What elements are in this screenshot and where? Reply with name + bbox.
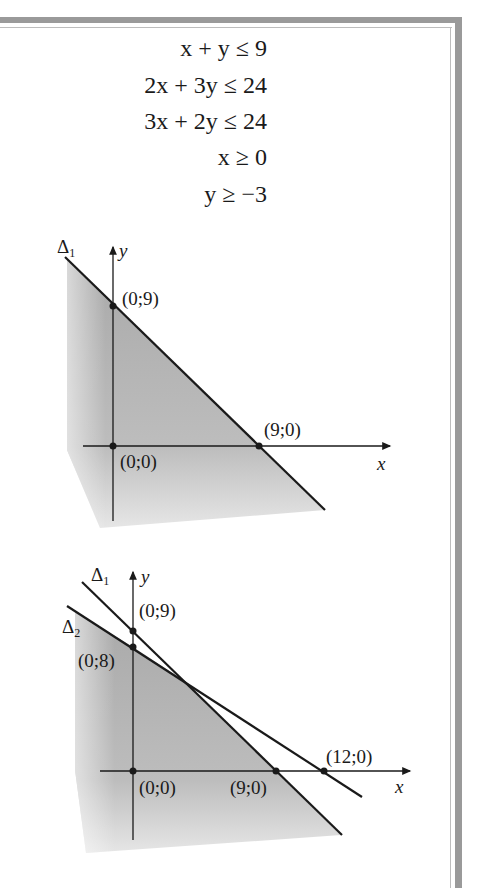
label-0-0: (0;0) (120, 451, 157, 473)
point-0-0 (110, 443, 117, 450)
y-axis-label-1: y (117, 240, 128, 261)
label-12-0-g2: (12;0) (326, 746, 372, 768)
graphs-canvas: Δ1 y x (0;9) (9;0) (0;0) Δ1 Δ2 y x (0;9)… (0, 0, 482, 888)
delta1-label-graph2: Δ1 (91, 564, 109, 588)
x-axis-label-1: x (376, 453, 386, 474)
delta1-label-graph1: Δ1 (57, 236, 75, 260)
point-0-8-g2 (130, 644, 137, 651)
label-9-0-g2: (9;0) (230, 777, 267, 799)
label-9-0: (9;0) (264, 419, 301, 441)
label-0-8-g2: (0;8) (78, 650, 115, 672)
point-9-0 (256, 443, 263, 450)
point-12-0-g2 (321, 768, 328, 775)
point-0-9 (110, 303, 117, 310)
point-0-0-g2 (130, 768, 137, 775)
graph-1: Δ1 y x (0;9) (9;0) (0;0) (57, 236, 390, 528)
x-axis-label-2: x (394, 776, 404, 797)
label-0-9-g2: (0;9) (139, 600, 176, 622)
label-0-0-g2: (0;0) (139, 777, 176, 799)
point-9-0-g2 (273, 768, 280, 775)
graph-2: Δ1 Δ2 y x (0;9) (0;8) (0;0) (9;0) (12;0) (62, 564, 410, 853)
y-axis-label-2: y (139, 566, 150, 587)
point-0-9-g2 (130, 628, 137, 635)
label-0-9: (0;9) (122, 288, 159, 310)
